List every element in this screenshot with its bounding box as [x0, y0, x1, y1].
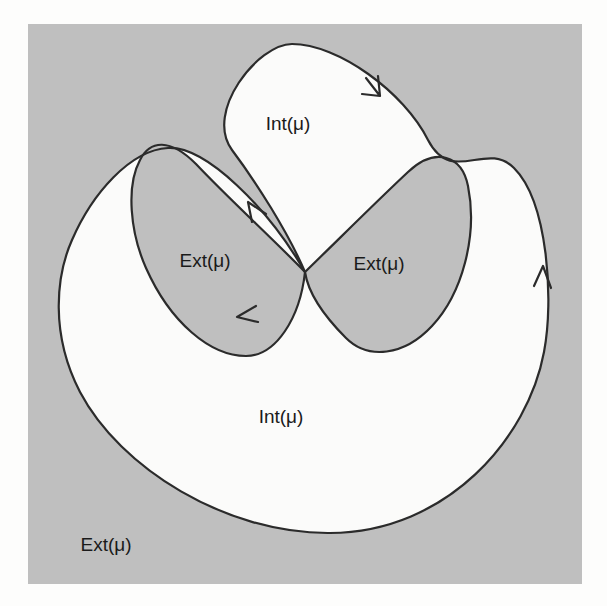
figure-container: Int(μ) Ext(μ) Ext(μ) Int(μ) Ext(μ) [0, 0, 607, 606]
label-ext-outside: Ext(μ) [80, 534, 131, 555]
label-ext-left-lobe: Ext(μ) [179, 250, 230, 271]
label-ext-right-lobe: Ext(μ) [353, 253, 404, 274]
label-int-top: Int(μ) [266, 113, 311, 134]
label-int-bottom: Int(μ) [259, 406, 304, 427]
curve-diagram: Int(μ) Ext(μ) Ext(μ) Int(μ) Ext(μ) [0, 0, 607, 606]
